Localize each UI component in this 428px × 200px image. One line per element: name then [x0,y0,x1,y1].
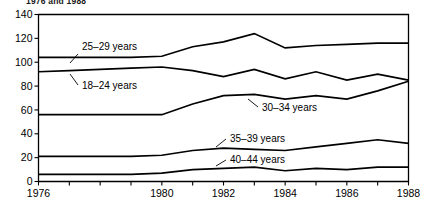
series-label-leader [216,160,226,166]
x-tick-label-1984: 1984 [273,187,297,199]
y-tick-label-0: 0 [27,175,33,187]
series-line-35-39-years [39,140,409,157]
y-tick-label-140: 140 [15,8,33,20]
series-label-18-24-years: 18–24 years [82,80,137,91]
y-tick-label-120: 120 [15,32,33,44]
series-label-leader [70,74,78,85]
series-label-leader [70,54,78,63]
x-tick-label-1982: 1982 [212,187,236,199]
y-tick-label-40: 40 [21,127,33,139]
line-chart-plot: 0204060801001201401976198019821984198619… [0,0,428,200]
series-label-35-39-years: 35–39 years [230,133,285,144]
y-tick-label-60: 60 [21,104,33,116]
y-tick-label-20: 20 [21,151,33,163]
series-label-leader [216,139,226,147]
y-tick-label-80: 80 [21,80,33,92]
x-tick-label-1986: 1986 [335,187,359,199]
series-line-40-44-years [39,167,409,174]
series-label-leader [248,99,258,107]
series-label-25-29-years: 25–29 years [82,41,137,52]
x-tick-label-1980: 1980 [150,187,174,199]
series-line-18-24-years [39,67,409,80]
series-label-40-44-years: 40–44 years [230,154,285,165]
chart-figure: 1976 and 1988 02040608010012014019761980… [0,0,428,200]
y-tick-label-100: 100 [15,56,33,68]
x-tick-label-1988: 1988 [397,187,421,199]
series-label-30-34-years: 30–34 years [262,102,317,113]
x-tick-label-1976: 1976 [27,187,51,199]
